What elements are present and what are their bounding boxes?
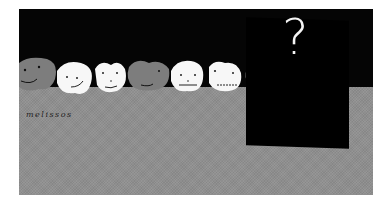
handwritten-caption: melissos: [26, 110, 73, 119]
white-face-2: [95, 63, 126, 92]
white-face-4: [209, 62, 241, 92]
gray-face-1: [19, 58, 56, 91]
white-face-3: [171, 61, 203, 92]
question-mark-icon: ?: [282, 8, 309, 66]
gray-face-2: [128, 61, 170, 91]
white-face-1: [57, 62, 92, 94]
faces-row: [19, 57, 269, 99]
